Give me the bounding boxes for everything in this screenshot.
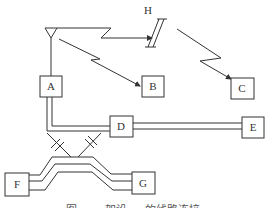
node-c-label: C	[238, 82, 245, 94]
node-g-label: G	[139, 177, 147, 189]
relay-h-symbol	[145, 19, 167, 47]
branch-connector	[47, 133, 101, 157]
antenna-icon	[45, 28, 57, 76]
node-a-label: A	[47, 80, 55, 92]
radio-link-to-b	[59, 39, 140, 86]
node-b-label: B	[149, 80, 156, 92]
radio-link-to-c	[177, 29, 231, 79]
network-diagram: A B C D E F G H 图 …… 架设 … 的线路连接	[0, 0, 271, 208]
node-d-label: D	[117, 120, 125, 132]
radio-link-to-relay	[57, 28, 152, 38]
cable-f-to-g	[29, 157, 132, 190]
cable-a-to-d	[47, 97, 110, 131]
figure-caption: 图 …… 架设 … 的线路连接	[66, 203, 201, 208]
relay-h-label: H	[144, 4, 152, 16]
node-f-label: F	[14, 178, 20, 190]
cable-d-to-e	[133, 123, 242, 129]
node-e-label: E	[250, 121, 257, 133]
